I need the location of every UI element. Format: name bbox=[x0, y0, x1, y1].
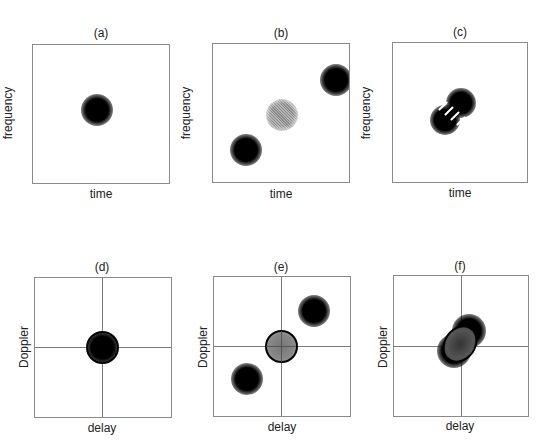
x-axis-label: time bbox=[390, 186, 530, 200]
plot-area bbox=[392, 42, 528, 183]
x-axis-label: delay bbox=[390, 419, 530, 433]
y-axis-label: Doppler bbox=[17, 297, 31, 397]
plot-area bbox=[34, 277, 172, 418]
x-axis-label: delay bbox=[32, 421, 172, 435]
gaussian-atom-lower bbox=[430, 105, 460, 135]
panel-title: (f) bbox=[390, 259, 530, 273]
panel-title: (a) bbox=[31, 26, 171, 40]
plot-area bbox=[32, 44, 170, 184]
plot-area bbox=[393, 275, 529, 417]
interference-term bbox=[266, 99, 298, 131]
y-axis-label: frequency bbox=[1, 63, 15, 163]
plot-area bbox=[212, 43, 350, 183]
cross-term-upper bbox=[298, 295, 330, 327]
cross-term-lower bbox=[231, 363, 263, 395]
panel-title: (b) bbox=[211, 26, 351, 40]
x-axis-label: time bbox=[211, 187, 351, 201]
gaussian-atom-upper bbox=[320, 64, 350, 96]
kernel-ring bbox=[86, 331, 119, 364]
doppler-axis-overlay bbox=[281, 331, 282, 362]
x-axis-label: time bbox=[31, 187, 171, 201]
y-axis-label: frequency bbox=[179, 63, 193, 163]
panel-title: (c) bbox=[390, 25, 530, 39]
plot-area bbox=[213, 276, 351, 417]
panel-title: (d) bbox=[32, 260, 172, 274]
y-axis-label: frequency bbox=[359, 63, 373, 163]
y-axis-label: Doppler bbox=[196, 297, 210, 397]
gaussian-atom bbox=[81, 94, 113, 126]
gaussian-atom-lower bbox=[230, 134, 262, 166]
y-axis-label: Doppler bbox=[376, 297, 390, 397]
x-axis-label: delay bbox=[212, 420, 352, 434]
panel-title: (e) bbox=[211, 260, 351, 274]
